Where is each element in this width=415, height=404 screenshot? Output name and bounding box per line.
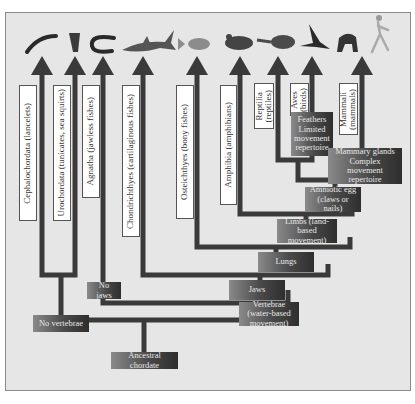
arrowhead-osteichthyes bbox=[186, 56, 208, 75]
arrowhead-chondrichthyes bbox=[132, 56, 154, 75]
label-urochordata: Urochordata (tunicates, sea squirts) bbox=[53, 85, 71, 221]
trait-feathers: Feathers Limited movement repertoire bbox=[291, 112, 333, 156]
trait-amniotic-egg: Amniotic egg (claws or nails) bbox=[305, 187, 361, 212]
label-agnatha: Agnatha (jawless fishes) bbox=[82, 85, 100, 198]
bird-icon bbox=[300, 24, 330, 49]
trait-ancestral-chordate: Ancestral chordate bbox=[111, 352, 178, 369]
human-icon bbox=[372, 15, 388, 52]
trait-lungs: Lungs bbox=[258, 252, 314, 272]
turtle-icon bbox=[257, 35, 295, 49]
bony-fish-icon bbox=[178, 38, 210, 50]
arrowhead-mammalia bbox=[351, 56, 373, 75]
arrowhead-urochordata bbox=[64, 56, 86, 75]
arrowhead-cephalochordata bbox=[31, 56, 53, 75]
arrowhead-reptilia bbox=[267, 56, 289, 75]
arrowhead-aves bbox=[301, 56, 323, 75]
trait-no-vertebrae: No vertebrae bbox=[33, 315, 89, 332]
label-mammalia: Mammali(mammals) bbox=[339, 83, 358, 135]
trait-mammary-glands: Mammary glands Complex movement repertoi… bbox=[328, 148, 402, 184]
label-reptilia: Reptilia(reptiles) bbox=[254, 83, 274, 129]
trait-vertebrae: Vertebrae (water-based movement) bbox=[239, 302, 299, 326]
arrowhead-agnatha bbox=[92, 56, 114, 75]
lancelet-icon bbox=[27, 36, 56, 52]
trait-limbs: Limbs (land-based movement) bbox=[277, 219, 337, 243]
label-cephalochordata: Cephalochordata (lancelets) bbox=[19, 85, 37, 221]
label-chondrichthyes: Chondrichthyes (cartilaginous fishes) bbox=[122, 85, 140, 237]
label-osteichthyes: Osteichthyes (bony fishes) bbox=[176, 85, 194, 219]
trait-jaws: Jaws bbox=[229, 280, 285, 300]
lamprey-icon bbox=[92, 37, 114, 52]
primate-icon bbox=[337, 34, 358, 52]
tunicate-icon bbox=[69, 33, 80, 52]
arrowhead-amphibia bbox=[229, 56, 251, 75]
shark-icon bbox=[122, 30, 176, 52]
trait-no-jaws: No jaws bbox=[87, 282, 121, 299]
frog-icon bbox=[225, 34, 253, 50]
label-amphibia: Amphibia (amphibians) bbox=[220, 85, 237, 205]
